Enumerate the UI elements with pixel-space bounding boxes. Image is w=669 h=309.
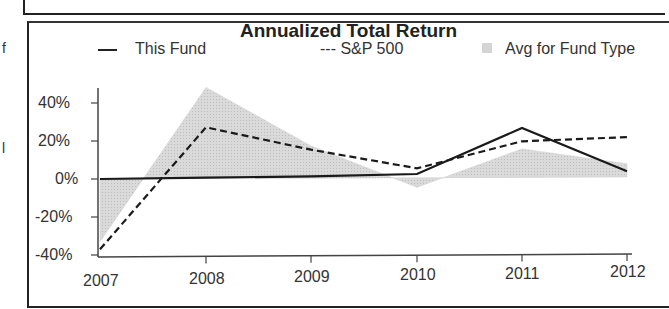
y-tick-label: 20% xyxy=(38,132,70,150)
x-tick-label: 2007 xyxy=(83,272,119,290)
y-tick-label: -20% xyxy=(35,208,72,226)
x-tick-label: 2012 xyxy=(610,263,646,281)
series-avg-fund-type xyxy=(100,87,627,241)
x-tick-label: 2010 xyxy=(400,266,436,284)
x-tick-label: 2008 xyxy=(189,270,225,288)
y-axis-ticks xyxy=(91,103,98,255)
x-tick-label: 2009 xyxy=(294,268,330,286)
y-tick-label: -40% xyxy=(35,246,72,264)
y-tick-label: 40% xyxy=(38,94,70,112)
x-axis xyxy=(98,254,632,257)
x-tick-label: 2011 xyxy=(505,265,539,283)
y-tick-label: 0% xyxy=(55,170,78,188)
